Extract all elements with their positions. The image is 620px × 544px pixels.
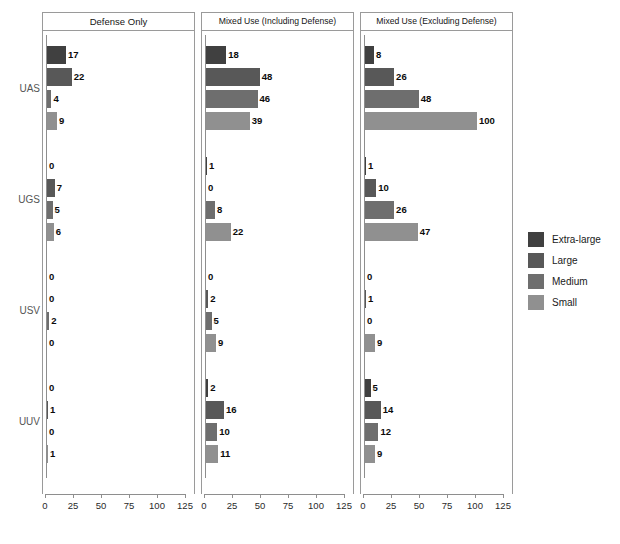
panel-2: Mixed Use (Including Defense)18484639108…	[201, 12, 354, 494]
bar	[206, 112, 250, 130]
bar-value-label: 14	[383, 401, 394, 419]
legend-item: Small	[528, 293, 616, 314]
x-axis-tick-label: 100	[467, 500, 483, 511]
bar	[206, 312, 212, 330]
bar-value-label: 1	[50, 445, 55, 463]
bar	[365, 334, 375, 352]
bar-value-label: 12	[380, 423, 391, 441]
y-group-label-ugs: UGS	[0, 194, 40, 205]
x-axis-tick	[363, 494, 364, 498]
x-axis: 0255075100125	[42, 494, 195, 524]
x-axis-tick	[344, 494, 345, 498]
bar	[365, 423, 378, 441]
bar	[206, 334, 216, 352]
bar-value-label: 11	[220, 445, 230, 463]
x-axis-tick-label: 125	[336, 500, 352, 511]
bar-value-label: 5	[214, 312, 219, 330]
bar	[47, 46, 66, 64]
x-axis-tick-label: 75	[124, 500, 135, 511]
bar-value-label: 0	[49, 423, 54, 441]
bar-value-label: 0	[49, 379, 54, 397]
bar	[47, 90, 51, 108]
panel-body: 172249075600200101	[42, 31, 195, 494]
bar-value-label: 0	[367, 268, 372, 286]
bar	[365, 112, 477, 130]
x-axis-line	[363, 494, 504, 495]
bar-value-label: 8	[217, 201, 222, 219]
x-axis-tick	[232, 494, 233, 498]
plot-area: 8264810011026470109514129	[361, 35, 512, 478]
bar-value-label: 6	[56, 223, 61, 241]
plot-area: 172249075600200101	[43, 35, 194, 478]
bar	[365, 223, 418, 241]
panel-1: Defense Only1722490756002001010255075100…	[42, 12, 195, 494]
chart-title	[0, 0, 520, 6]
bar	[47, 312, 49, 330]
x-axis: 0255075100125	[201, 494, 354, 524]
x-axis-tick-label: 25	[68, 500, 79, 511]
x-axis-tick	[447, 494, 448, 498]
bar-value-label: 0	[49, 268, 54, 286]
legend-label: Small	[552, 293, 577, 312]
legend-item: Large	[528, 251, 616, 272]
bar	[206, 223, 231, 241]
legend-label: Extra-large	[552, 230, 601, 249]
x-axis-tick	[73, 494, 74, 498]
x-axis-tick-label: 100	[149, 500, 165, 511]
legend-label: Medium	[552, 272, 588, 291]
bar-value-label: 46	[260, 90, 271, 108]
bar-value-label: 10	[378, 179, 389, 197]
x-axis-tick	[129, 494, 130, 498]
x-axis-tick	[475, 494, 476, 498]
y-group-label-uas: UAS	[0, 83, 40, 94]
bar	[206, 68, 260, 86]
bar-value-label: 5	[55, 201, 60, 219]
bar-value-label: 0	[49, 157, 54, 175]
bar	[206, 201, 215, 219]
x-axis-tick-label: 125	[177, 500, 193, 511]
x-axis-tick-label: 25	[386, 500, 397, 511]
bar-value-label: 7	[57, 179, 62, 197]
legend-label: Large	[552, 251, 578, 270]
bar-value-label: 100	[479, 112, 495, 130]
bar	[47, 223, 54, 241]
panel-title: Mixed Use (Excluding Defense)	[360, 12, 513, 31]
bar-value-label: 4	[53, 90, 58, 108]
bar-value-label: 0	[49, 290, 54, 308]
bar-value-label: 16	[226, 401, 237, 419]
bar-value-label: 2	[51, 312, 56, 330]
x-axis-tick-label: 75	[442, 500, 453, 511]
x-axis-tick	[101, 494, 102, 498]
bar-value-label: 0	[49, 334, 54, 352]
x-axis-tick	[45, 494, 46, 498]
bar	[365, 46, 374, 64]
legend-item: Medium	[528, 272, 616, 293]
y-group-label-usv: USV	[0, 305, 40, 316]
bar-value-label: 26	[396, 68, 407, 86]
bar-value-label: 1	[209, 157, 214, 175]
panel-title: Mixed Use (Including Defense)	[201, 12, 354, 31]
bar-value-label: 48	[421, 90, 432, 108]
x-axis-tick-label: 0	[360, 500, 365, 511]
x-axis-tick	[419, 494, 420, 498]
x-axis-tick	[260, 494, 261, 498]
x-axis-tick-label: 25	[227, 500, 238, 511]
bar	[47, 68, 72, 86]
bar-value-label: 8	[376, 46, 381, 64]
bar-value-label: 0	[367, 312, 372, 330]
bar	[365, 201, 394, 219]
bar-value-label: 2	[210, 379, 215, 397]
x-axis-tick	[204, 494, 205, 498]
bar-value-label: 9	[59, 112, 64, 130]
bar-value-label: 9	[218, 334, 223, 352]
x-axis-tick-label: 50	[414, 500, 425, 511]
bar	[365, 445, 375, 463]
bar	[206, 46, 226, 64]
x-axis-tick-label: 0	[201, 500, 206, 511]
bar-value-label: 26	[396, 201, 407, 219]
x-axis-line	[45, 494, 186, 495]
x-axis-tick-label: 50	[255, 500, 266, 511]
x-axis-tick-label: 0	[42, 500, 47, 511]
plot-area: 184846391082202592161011	[202, 35, 353, 478]
bar	[365, 90, 419, 108]
